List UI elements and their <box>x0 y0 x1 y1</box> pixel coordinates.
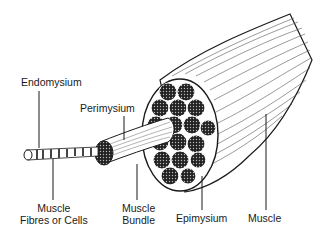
label-endomysium: Endomysium <box>21 76 82 88</box>
label-muscle-bundle: Muscle Bundle <box>122 202 155 226</box>
muscle-fibre <box>24 147 98 160</box>
label-muscle: Muscle <box>248 212 281 224</box>
label-muscle-bundle-line1: Muscle <box>122 202 155 214</box>
label-muscle-fibres-line2: Fibres or Cells <box>20 214 88 226</box>
label-perimysium: Perimysium <box>80 102 135 114</box>
label-muscle-fibres: Muscle Fibres or Cells <box>20 202 88 226</box>
label-muscle-bundle-line2: Bundle <box>122 214 155 226</box>
label-epimysium: Epimysium <box>176 212 227 224</box>
muscle-diagram <box>0 0 318 236</box>
label-muscle-fibres-line1: Muscle <box>20 202 88 214</box>
